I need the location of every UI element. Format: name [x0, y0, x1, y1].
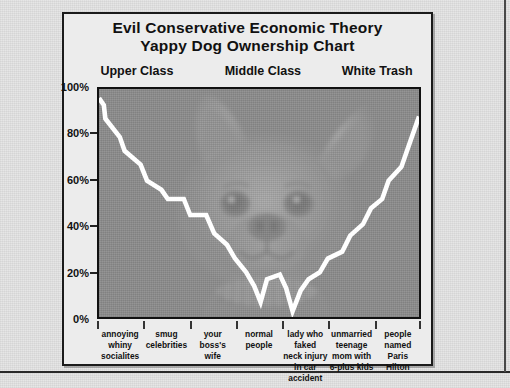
y-tick-label-80: 80% [67, 127, 89, 139]
y-tick-label-100: 100% [61, 81, 89, 93]
x-tick-mark-4 [282, 321, 284, 329]
x-label-line: Hilton [375, 362, 421, 373]
x-label-3: normalpeople [236, 329, 282, 351]
y-tick-label-40: 40% [67, 220, 89, 232]
x-tick-mark-1 [143, 321, 145, 329]
class-header-2: White Trash [342, 64, 413, 78]
chart-title-line-1: Evil Conservative Economic Theory [64, 19, 431, 37]
x-label-line: people [375, 329, 421, 340]
x-tick-mark-2 [190, 321, 192, 329]
x-label-line: celebrities [143, 340, 189, 351]
x-label-6: peoplenamedParisHilton [375, 329, 421, 373]
x-label-line: socialites [97, 351, 143, 362]
x-label-line: named [375, 340, 421, 351]
x-label-line: unmarried [328, 329, 374, 340]
x-label-line: teenage [328, 340, 374, 351]
x-label-line: annoying [97, 329, 143, 340]
x-label-line: wife [190, 351, 236, 362]
x-label-line: people [236, 340, 282, 351]
y-axis: 0%20%40%60%80%100% [64, 87, 97, 319]
y-tick-mark-40 [90, 225, 97, 227]
x-tick-mark-5 [328, 321, 330, 329]
x-label-line: whiny [97, 340, 143, 351]
x-label-2: yourboss'swife [190, 329, 236, 362]
class-band-headers: Upper ClassMiddle ClassWhite Trash [72, 64, 427, 80]
x-axis-category-labels: annoyingwhinysocialitessmugcelebritiesyo… [97, 329, 421, 377]
y-tick-label-0: 0% [73, 313, 89, 325]
figure-frame: Evil Conservative Economic Theory Yappy … [62, 12, 433, 366]
x-label-line: smug [143, 329, 189, 340]
x-label-line: lady who faked [282, 329, 328, 351]
page-rule-right [504, 0, 506, 372]
data-line [99, 89, 419, 318]
x-label-line: accident [282, 373, 328, 384]
x-axis [97, 319, 421, 329]
x-tick-mark-3 [236, 321, 238, 329]
x-label-0: annoyingwhinysocialites [97, 329, 143, 362]
class-header-1: Middle Class [225, 64, 301, 78]
y-tick-mark-60 [90, 179, 97, 181]
plot-area [97, 87, 421, 319]
plot-wrapper: 0%20%40%60%80%100% [97, 87, 421, 319]
x-label-line: mom with [328, 351, 374, 362]
x-label-5: unmarriedteenagemom with6-plus kids [328, 329, 374, 373]
y-tick-label-20: 20% [67, 267, 89, 279]
y-tick-mark-20 [90, 272, 97, 274]
chart-title-line-2: Yappy Dog Ownership Chart [64, 37, 431, 55]
x-label-line: neck injury in car [282, 351, 328, 373]
x-label-1: smugcelebrities [143, 329, 189, 351]
y-tick-label-60: 60% [67, 174, 89, 186]
x-label-4: lady who fakedneck injury in caraccident [282, 329, 328, 384]
x-label-line: normal [236, 329, 282, 340]
x-label-line: 6-plus kids [328, 362, 374, 373]
chart-title: Evil Conservative Economic Theory Yappy … [64, 19, 431, 55]
x-label-line: Paris [375, 351, 421, 362]
x-label-line: boss's [190, 340, 236, 351]
x-label-line: your [190, 329, 236, 340]
x-tick-mark-0 [97, 321, 99, 329]
y-tick-mark-80 [90, 132, 97, 134]
x-tick-mark-7 [419, 321, 421, 329]
class-header-0: Upper Class [100, 64, 173, 78]
x-tick-mark-6 [375, 321, 377, 329]
